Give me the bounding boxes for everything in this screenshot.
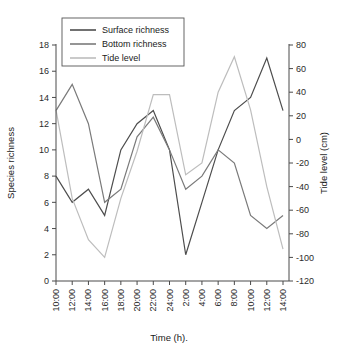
y-right-tick-label: 60 (296, 64, 306, 74)
y-right-tick-label: 80 (296, 40, 306, 50)
y-left-tick-label: 12 (39, 119, 49, 129)
y-left-tick-label: 10 (39, 145, 49, 155)
x-tick-label: 10:00 (246, 289, 256, 312)
y-right-tick-label: 0 (296, 135, 301, 145)
x-tick-label: 20:00 (132, 289, 142, 312)
y-right-tick-label: 20 (296, 111, 306, 121)
legend-label-surface-richness: Surface richness (102, 25, 170, 35)
x-tick-label: 12:00 (67, 289, 77, 312)
y-left-tick-label: 2 (44, 250, 49, 260)
y-right-tick-label: -80 (296, 229, 309, 239)
y-left-tick-label: 6 (44, 198, 49, 208)
y-left-tick-label: 16 (39, 66, 49, 76)
x-tick-label: 8:00 (229, 289, 239, 307)
y-right-tick-label: -20 (296, 158, 309, 168)
y-right-tick-label: -40 (296, 182, 309, 192)
x-tick-label: 16:00 (100, 289, 110, 312)
x-tick-label: 12:00 (262, 289, 272, 312)
x-tick-label: 4:00 (197, 289, 207, 307)
x-tick-label: 22:00 (148, 289, 158, 312)
legend-label-tide-level: Tide level (102, 53, 140, 63)
y-right-tick-label: -60 (296, 205, 309, 215)
y-left-tick-label: 14 (39, 93, 49, 103)
figure-container: 10:0012:0014:0016:0018:0020:0022:0024:00… (0, 0, 339, 349)
y-axis-left-title: Species richness (5, 127, 16, 199)
x-tick-label: 14:00 (83, 289, 93, 312)
y-right-tick-label: -120 (296, 276, 314, 286)
x-tick-label: 14:00 (278, 289, 288, 312)
chart-legend: Surface richnessBottom richnessTide leve… (62, 18, 184, 66)
y-left-tick-label: 4 (44, 224, 49, 234)
y-right-tick-label: 40 (296, 87, 306, 97)
y-right-tick-label: -100 (296, 253, 314, 263)
y-left-tick-label: 18 (39, 40, 49, 50)
x-tick-label: 24:00 (165, 289, 175, 312)
legend-label-bottom-richness: Bottom richness (102, 39, 167, 49)
line-chart: 10:0012:0014:0016:0018:0020:0022:0024:00… (0, 0, 339, 349)
y-axis-right-title: Tide level (cm) (318, 132, 329, 194)
x-tick-label: 10:00 (51, 289, 61, 312)
x-axis-title: Time (h). (150, 332, 188, 343)
y-left-tick-label: 8 (44, 171, 49, 181)
y-left-tick-label: 0 (44, 276, 49, 286)
x-tick-label: 18:00 (116, 289, 126, 312)
x-tick-label: 2:00 (181, 289, 191, 307)
x-tick-label: 6:00 (213, 289, 223, 307)
